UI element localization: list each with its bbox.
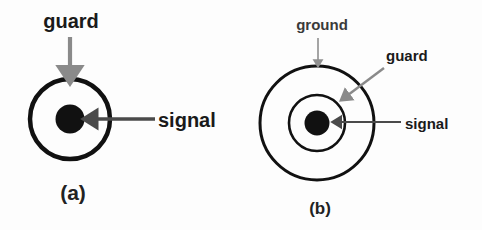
- panel-a-caption: (a): [60, 181, 86, 204]
- panel-b-guard-label: guard: [386, 47, 428, 64]
- cable-cross-section-figure: guard signal (a) ground guard signal (b): [0, 0, 482, 230]
- panel-a-signal-conductor: [56, 105, 85, 134]
- panel-b-caption: (b): [309, 199, 331, 218]
- panel-a-signal-label: signal: [158, 109, 216, 131]
- panel-b-signal-label: signal: [405, 115, 448, 132]
- figure-container: guard signal (a) ground guard signal (b): [0, 0, 482, 230]
- panel-a-guard-label: guard: [43, 10, 99, 32]
- panel-b-signal-conductor: [305, 111, 330, 136]
- panel-b-ground-label: ground: [296, 16, 348, 33]
